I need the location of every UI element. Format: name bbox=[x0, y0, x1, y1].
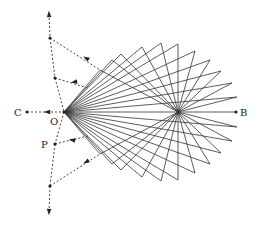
optics-diagram: C O P B bbox=[0, 0, 262, 228]
point-dot bbox=[53, 142, 56, 145]
point-markers bbox=[25, 11, 237, 215]
arrowhead-icon bbox=[47, 11, 51, 17]
arrowhead-icon bbox=[83, 56, 90, 61]
arrowhead-icon bbox=[47, 209, 51, 215]
point-dot bbox=[234, 110, 237, 113]
label-B: B bbox=[240, 107, 247, 118]
label-O: O bbox=[50, 116, 58, 127]
label-P: P bbox=[41, 139, 48, 150]
arrowhead-icon bbox=[44, 110, 50, 114]
point-dot bbox=[25, 110, 28, 113]
arrowhead-icon bbox=[69, 138, 76, 142]
label-C: C bbox=[14, 107, 22, 118]
point-dot bbox=[62, 110, 65, 113]
point-dot bbox=[53, 76, 56, 79]
arrowhead-icon bbox=[83, 158, 90, 163]
point-dot bbox=[48, 184, 51, 187]
point-dot bbox=[48, 36, 51, 39]
ray-lattice bbox=[64, 43, 237, 181]
